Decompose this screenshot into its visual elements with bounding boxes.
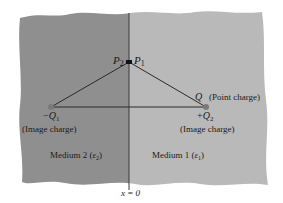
label-image-charge-left: (Image charge) — [22, 124, 77, 134]
label-medium-2: Medium 2 (ε2) — [50, 150, 102, 161]
label-medium-1: Medium 1 (ε1) — [152, 150, 204, 161]
label-boundary-x0: x = 0 — [120, 188, 141, 198]
point-p-marker — [126, 60, 132, 64]
image-charge-diagram: P2 P1 Q (Point charge) −Q1 (Image charge… — [0, 0, 283, 203]
label-image-charge-right: (Image charge) — [180, 124, 235, 134]
label-q-point: Q — [195, 91, 203, 102]
label-point-charge: (Point charge) — [209, 92, 260, 102]
